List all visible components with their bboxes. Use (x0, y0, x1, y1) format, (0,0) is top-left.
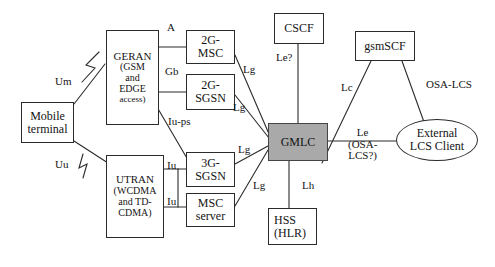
edge-label-gb: Gb (165, 66, 178, 78)
edge-label-um: Um (55, 76, 72, 88)
node-external-lcs-client: External LCS Client (396, 119, 478, 161)
node-cscf: CSCF (274, 13, 324, 44)
connector-gsmscf-client (402, 61, 424, 122)
node-mobile-terminal-line-1: terminal (28, 123, 68, 136)
edge-label-iu-ps: Iu-ps (168, 116, 191, 128)
node-2g-sgsn: 2G- SGSN (186, 74, 235, 110)
edge-label-le-osa-lcs: Le (OSA- LCS?) (348, 127, 377, 162)
node-external-lcs-client-line-0: External (417, 127, 458, 140)
connector-mt-utran (74, 141, 108, 178)
node-gmlc-line-0: GMLC (281, 136, 316, 149)
node-2g-msc-line-1: MSC (198, 47, 223, 60)
node-gmlc: GMLC (268, 123, 328, 161)
edge-label-lc: Lc (341, 82, 353, 94)
edge-label-lg-4: Lg (253, 180, 265, 192)
node-3g-sgsn-line-0: 3G- (201, 157, 220, 170)
edge-label-iu-1: Iu (167, 160, 176, 172)
edge-label-lg-2: Lg (233, 102, 245, 114)
node-geran-line-4: access) (120, 95, 146, 105)
connector-mscserver-gmlc (235, 150, 268, 206)
node-hss: HSS (HLR) (268, 208, 317, 245)
node-hss-line-0: HSS (274, 214, 296, 227)
edge-label-lg-3: Lg (238, 144, 250, 156)
edge-label-osa-lcs: OSA-LCS (426, 79, 472, 91)
node-utran-line-3: CDMA) (118, 208, 151, 219)
edge-label-iu-2: Iu (167, 196, 176, 208)
node-external-lcs-client-line-1: LCS Client (410, 140, 464, 153)
node-msc-server-line-1: server (196, 210, 225, 223)
edge-label-lh: Lh (302, 180, 314, 192)
node-cscf-line-0: CSCF (284, 22, 313, 35)
node-hss-line-1: (HLR) (274, 227, 306, 240)
node-mobile-terminal-line-0: Mobile (30, 110, 65, 123)
node-2g-msc: 2G- MSC (186, 30, 235, 64)
node-3g-sgsn: 3G- SGSN (186, 152, 235, 187)
node-utran: UTRAN (WCDMA and TD- CDMA) (106, 155, 164, 238)
edge-label-lg-1: Lg (243, 64, 255, 76)
node-2g-sgsn-line-1: SGSN (195, 92, 226, 105)
node-geran: GERAN (GSM and EDGE access) (106, 30, 159, 125)
node-mobile-terminal: Mobile terminal (21, 102, 74, 143)
node-msc-server: MSC server (186, 193, 235, 227)
connector-mt-geran (74, 52, 105, 104)
network-architecture-diagram: Mobile terminal GERAN (GSM and EDGE acce… (0, 0, 495, 267)
edge-label-le-question: Le? (276, 52, 292, 64)
node-gsmscf: gsmSCF (355, 31, 415, 61)
node-3g-sgsn-line-1: SGSN (195, 170, 226, 183)
edge-label-uu: Uu (55, 159, 68, 171)
edge-label-le-osa-lcs-line-0: Le (348, 127, 377, 139)
edge-label-a: A (167, 22, 175, 34)
node-gsmscf-line-0: gsmSCF (364, 40, 405, 53)
edge-label-le-osa-lcs-line-2: LCS?) (348, 150, 377, 162)
